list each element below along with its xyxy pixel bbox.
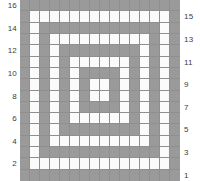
y-axis-right-tick-5: 5 (180, 124, 200, 135)
grid-cell (140, 68, 150, 79)
grid-cell (50, 34, 60, 45)
grid-cell (90, 136, 100, 147)
grid-cell (80, 124, 90, 135)
grid-cell (130, 102, 140, 113)
grid-cell (110, 113, 120, 124)
grid-cell (30, 124, 40, 135)
grid-cell (150, 57, 160, 68)
grid-cell (50, 57, 60, 68)
grid-cell (110, 57, 120, 68)
grid-cell (130, 147, 140, 158)
grid-cell (140, 124, 150, 135)
grid-figure: 161412108642 15131197531 (0, 0, 200, 181)
grid-cell (150, 23, 160, 34)
grid-cell (90, 57, 100, 68)
grid-cell (130, 91, 140, 102)
grid-cell (20, 11, 30, 22)
grid-cell (70, 57, 80, 68)
grid-cell (140, 158, 150, 169)
grid-cell (70, 113, 80, 124)
grid-cell (130, 0, 140, 11)
y-axis-right-tick-13: 13 (180, 34, 200, 45)
grid-cell (80, 113, 90, 124)
grid-cell (100, 170, 110, 181)
grid-cell (60, 45, 70, 56)
grid-cell (140, 170, 150, 181)
grid-cell (140, 34, 150, 45)
grid-cell (80, 23, 90, 34)
grid-cell (80, 11, 90, 22)
grid-cell (110, 68, 120, 79)
grid-cell (130, 124, 140, 135)
grid-cell (110, 79, 120, 90)
grid-cell (80, 45, 90, 56)
grid-cell (30, 45, 40, 56)
grid-cell (90, 102, 100, 113)
grid-cell (50, 147, 60, 158)
grid-cell (140, 102, 150, 113)
grid-cell (120, 136, 130, 147)
grid-cell (60, 0, 70, 11)
grid-cell (140, 136, 150, 147)
y-axis-right-tick-9: 9 (180, 79, 200, 90)
grid-cell (90, 23, 100, 34)
grid-cell (160, 34, 170, 45)
grid-cell (170, 124, 180, 135)
grid-cell (130, 34, 140, 45)
grid-cell (150, 136, 160, 147)
grid-cell (130, 113, 140, 124)
grid-cell (160, 11, 170, 22)
grid-cell (160, 45, 170, 56)
grid-cell (110, 124, 120, 135)
grid-cell (60, 102, 70, 113)
grid-cell (170, 0, 180, 11)
grid-cell (50, 45, 60, 56)
grid-cell (140, 147, 150, 158)
grid-cell (30, 34, 40, 45)
grid-cell (100, 158, 110, 169)
grid-cell (60, 57, 70, 68)
grid-cell (140, 91, 150, 102)
grid-cell (100, 102, 110, 113)
grid-cell (130, 57, 140, 68)
y-axis-left-tick-16: 16 (0, 0, 20, 11)
grid-cell (50, 91, 60, 102)
grid-cell (130, 11, 140, 22)
grid-cell (120, 0, 130, 11)
grid-cell (30, 68, 40, 79)
grid-cell (150, 102, 160, 113)
grid-cell (40, 170, 50, 181)
grid-cell (70, 0, 80, 11)
grid-cell (170, 23, 180, 34)
grid-cell (50, 68, 60, 79)
grid-cell (60, 158, 70, 169)
grid-cell (160, 91, 170, 102)
grid-cell (130, 79, 140, 90)
grid-cell (60, 34, 70, 45)
grid-cell (150, 68, 160, 79)
grid-cell (130, 158, 140, 169)
y-axis-left-tick-10: 10 (0, 68, 20, 79)
grid-cell (170, 136, 180, 147)
grid-cell (80, 0, 90, 11)
grid-cell (100, 57, 110, 68)
grid-cell (120, 170, 130, 181)
grid-cell (50, 0, 60, 11)
grid-cell (60, 136, 70, 147)
grid-cell (110, 0, 120, 11)
grid-cell (160, 158, 170, 169)
grid-cell (120, 34, 130, 45)
grid-cell (100, 113, 110, 124)
grid-cell (100, 68, 110, 79)
grid-cell (20, 158, 30, 169)
grid-cell (170, 11, 180, 22)
grid-cell (20, 79, 30, 90)
grid-cell (80, 57, 90, 68)
grid-cell (100, 11, 110, 22)
grid-cell (120, 91, 130, 102)
grid-cell (80, 34, 90, 45)
y-axis-left-tick-12: 12 (0, 45, 20, 56)
grid-cell (130, 136, 140, 147)
y-axis-right-tick-3: 3 (180, 147, 200, 158)
grid-cell (110, 34, 120, 45)
